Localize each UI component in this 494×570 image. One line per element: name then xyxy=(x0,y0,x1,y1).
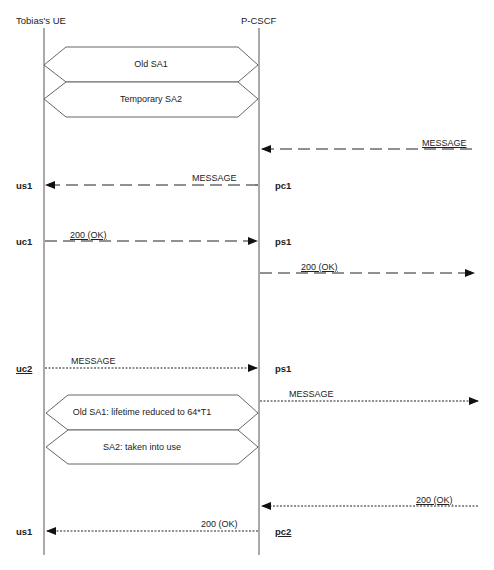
ue-port-us1-b: us1 xyxy=(16,527,32,537)
pcscf-port-ps1: ps1 xyxy=(275,237,291,247)
message-label-200ok-in: 200 (OK) xyxy=(416,496,453,505)
ue-port-uc2: uc2 xyxy=(16,364,32,374)
participant-ue: Tobias's UE xyxy=(16,16,66,26)
sequence-diagram xyxy=(0,0,494,570)
sa-old-sa1-reduced-label: Old SA1: lifetime reduced to 64*T1 xyxy=(73,408,212,417)
message-label-in: MESSAGE xyxy=(422,139,467,148)
message-label-200ok-out: 200 (OK) xyxy=(301,263,338,272)
message-label-to-ue: MESSAGE xyxy=(192,174,237,183)
message-label-200ok-to-pcscf: 200 (OK) xyxy=(70,231,107,240)
pcscf-port-ps1-b: ps1 xyxy=(275,364,291,374)
sa-temporary-sa2-label: Temporary SA2 xyxy=(120,95,182,104)
pcscf-port-pc1: pc1 xyxy=(275,181,291,191)
sa-old-sa1-label: Old SA1 xyxy=(134,60,168,69)
participant-pcscf: P-CSCF xyxy=(241,16,276,26)
sa-sa2-in-use-label: SA2: taken into use xyxy=(103,443,181,452)
ue-port-us1: us1 xyxy=(16,181,32,191)
message-label-out: MESSAGE xyxy=(289,390,334,399)
ue-port-uc1: uc1 xyxy=(16,237,32,247)
message-label-200ok-to-ue: 200 (OK) xyxy=(201,520,238,529)
message-label-from-ue: MESSAGE xyxy=(71,357,116,366)
pcscf-port-pc2: pc2 xyxy=(275,527,291,537)
